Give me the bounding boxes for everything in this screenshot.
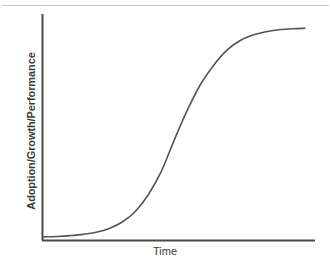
s-curve-line bbox=[44, 28, 305, 237]
plot-area bbox=[0, 0, 330, 262]
y-axis-label-text: Adoption/Growth/Performance bbox=[20, 0, 42, 253]
y-axis-label: Adoption/Growth/Performance bbox=[20, 0, 42, 253]
x-axis-label: Time bbox=[42, 245, 288, 257]
chart-figure: Adoption/Growth/Performance Time bbox=[0, 0, 330, 262]
